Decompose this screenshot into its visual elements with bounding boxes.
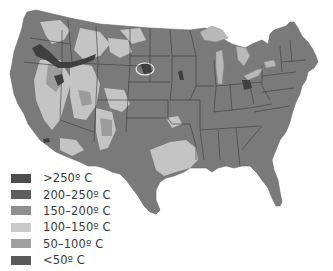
legend-swatch: [11, 206, 31, 215]
legend-label: 200–250º C: [43, 188, 111, 202]
legend-item-50-100: 50–100º C: [11, 236, 111, 252]
legend-label: >250º C: [43, 171, 92, 185]
legend-swatch: [11, 256, 31, 265]
legend-swatch: [11, 190, 31, 199]
legend-item-100-150: 100–150º C: [11, 219, 111, 235]
legend-item-over-250: >250º C: [11, 170, 111, 186]
legend-item-under-50: <50º C: [11, 252, 111, 268]
legend-label: 150–200º C: [43, 204, 111, 218]
legend-swatch: [11, 223, 31, 232]
legend-swatch: [11, 174, 31, 183]
legend-label: <50º C: [43, 253, 85, 267]
legend-label: 100–150º C: [43, 220, 111, 234]
legend-label: 50–100º C: [43, 237, 103, 251]
legend-item-200-250: 200–250º C: [11, 186, 111, 202]
legend-item-150-200: 150–200º C: [11, 203, 111, 219]
legend-swatch: [11, 239, 31, 248]
legend: >250º C 200–250º C 150–200º C 100–150º C…: [11, 170, 111, 268]
